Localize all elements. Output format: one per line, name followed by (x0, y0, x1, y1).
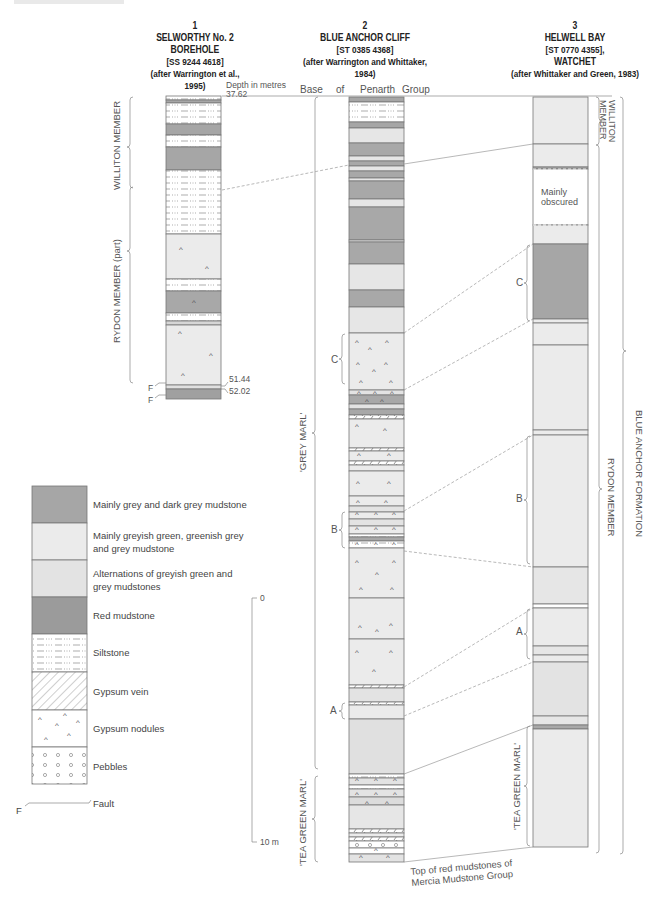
svg-text:^: ^ (374, 790, 378, 799)
column-2-brackets (312, 97, 345, 862)
legend-label-gypsum-nodules: Gypsum nodules (93, 722, 164, 735)
svg-text:^: ^ (390, 389, 394, 398)
svg-text:^: ^ (67, 731, 71, 740)
col3-tea-green-label: 'TEA GREEN MARL' (511, 743, 522, 830)
svg-text:^: ^ (372, 667, 376, 676)
svg-text:^: ^ (374, 510, 378, 519)
scale-bar (252, 598, 257, 842)
column-1-brackets (127, 97, 133, 383)
svg-text:^: ^ (387, 479, 391, 488)
col2-marker-b: B (331, 524, 338, 535)
col3-rydon-label: RYDON MEMBER (606, 458, 617, 536)
col2-marker-a: A (330, 705, 337, 716)
svg-text:^: ^ (390, 585, 394, 594)
svg-text:^: ^ (384, 360, 388, 369)
svg-text:^: ^ (392, 525, 396, 534)
scale-bottom-label: 10 m (260, 837, 279, 847)
svg-text:^: ^ (44, 735, 48, 744)
svg-text:^: ^ (380, 397, 384, 406)
svg-text:^: ^ (356, 360, 360, 369)
svg-text:^: ^ (76, 718, 80, 727)
svg-text:^: ^ (357, 389, 361, 398)
svg-text:^: ^ (179, 245, 183, 254)
svg-text:^: ^ (383, 426, 387, 435)
col3-marker-a: A (516, 626, 523, 637)
formation-label: BLUE ANCHOR FORMATION (634, 410, 645, 537)
svg-text:^: ^ (393, 776, 397, 785)
svg-text:^: ^ (209, 351, 213, 360)
col2-marker-c: C (331, 354, 338, 365)
legend-label-gypsum-vein: Gypsum vein (93, 685, 148, 698)
legend-label-fault: Fault (93, 797, 114, 810)
svg-text:^: ^ (375, 570, 379, 579)
svg-text:^: ^ (372, 367, 376, 376)
obscured-label-2: obscured (541, 197, 578, 207)
svg-text:^: ^ (192, 298, 196, 307)
svg-text:^: ^ (392, 540, 396, 549)
svg-text:^: ^ (387, 451, 391, 460)
svg-text:^: ^ (384, 498, 388, 507)
svg-text:^: ^ (373, 389, 377, 398)
col3-marker-b: B (516, 493, 523, 504)
legend-fault-marker: F (16, 804, 22, 817)
svg-text:^: ^ (355, 422, 359, 431)
svg-text:^: ^ (368, 345, 372, 354)
col3-marker-c: C (516, 277, 523, 288)
svg-text:^: ^ (355, 510, 359, 519)
col2-grey-marl-label: 'GREY MARL' (297, 413, 308, 472)
svg-text:^: ^ (63, 711, 67, 720)
svg-text:^: ^ (355, 558, 359, 567)
obscured-label-1: Mainly (541, 187, 567, 197)
svg-text:^: ^ (359, 853, 363, 862)
svg-text:^: ^ (355, 790, 359, 799)
col3-williton-label-1: WILLITON (607, 100, 617, 142)
svg-text:^: ^ (374, 776, 378, 785)
legend-label-greyish-green: Mainly greyish green, greenish grey and … (93, 529, 244, 555)
svg-text:^: ^ (365, 799, 369, 808)
svg-text:^: ^ (389, 378, 393, 387)
col2-tea-green-label: 'TEA GREEN MARL' (297, 779, 308, 866)
legend-label-dark-mudstone: Mainly grey and dark grey mudstone (93, 498, 247, 511)
svg-text:^: ^ (385, 799, 389, 808)
column-3-log (533, 97, 588, 847)
col1-rydon-label: RYDON MEMBER (part) (111, 239, 122, 343)
legend-label-pebbles: Pebbles (93, 760, 127, 773)
svg-text:^: ^ (205, 264, 209, 273)
svg-text:^: ^ (365, 397, 369, 406)
svg-text:^: ^ (359, 585, 363, 594)
svg-text:^: ^ (355, 776, 359, 785)
svg-text:^: ^ (355, 648, 359, 657)
svg-text:^: ^ (356, 498, 360, 507)
svg-text:^: ^ (356, 479, 360, 488)
svg-text:^: ^ (374, 540, 378, 549)
legend-swatches (32, 486, 87, 784)
svg-text:^: ^ (386, 853, 390, 862)
col3-williton-label-2: MEMBER (598, 100, 608, 140)
svg-text:^: ^ (389, 648, 393, 657)
svg-text:^: ^ (359, 378, 363, 387)
svg-text:^: ^ (374, 525, 378, 534)
svg-text:^: ^ (358, 623, 362, 632)
scale-top-label: 0 (260, 593, 265, 603)
legend-label-red-mudstone: Red mudstone (93, 609, 155, 622)
svg-text:^: ^ (355, 540, 359, 549)
svg-text:^: ^ (357, 451, 361, 460)
svg-text:^: ^ (181, 371, 185, 380)
legend-label-siltstone: Siltstone (93, 646, 129, 659)
svg-text:^: ^ (392, 510, 396, 519)
svg-text:^: ^ (385, 338, 389, 347)
svg-text:^: ^ (355, 525, 359, 534)
svg-text:^: ^ (355, 338, 359, 347)
svg-text:^: ^ (178, 329, 182, 338)
fault-legend-line (25, 800, 91, 806)
col1-williton-label: WILLITON MEMBER (111, 101, 122, 190)
legend-label-alternations: Alternations of greyish green and grey m… (93, 567, 232, 593)
svg-text:^: ^ (389, 621, 393, 630)
svg-text:^: ^ (374, 846, 378, 855)
svg-text:^: ^ (393, 790, 397, 799)
svg-text:^: ^ (392, 558, 396, 567)
svg-text:^: ^ (55, 721, 59, 730)
svg-text:^: ^ (38, 715, 42, 724)
svg-text:^: ^ (375, 627, 379, 636)
